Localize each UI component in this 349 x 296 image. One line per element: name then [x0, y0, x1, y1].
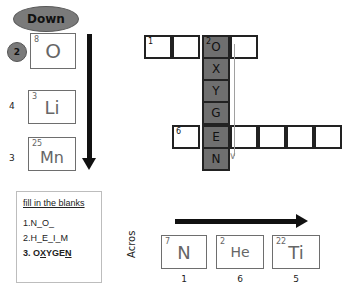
crossword-cell[interactable]: 6 — [172, 125, 200, 149]
element-card-helium: 2 He — [216, 235, 264, 269]
clue-number: 6 — [176, 127, 181, 136]
side-number: 3 — [9, 153, 15, 163]
element-card-titanium: 22 Ti — [272, 235, 320, 269]
down-arrow-icon — [87, 34, 92, 162]
crossword-cell[interactable] — [172, 35, 200, 59]
fill-in-blanks-title: fill in the blanks — [23, 198, 95, 208]
right-arrow-icon — [175, 219, 298, 224]
fill-in-blanks-box: fill in the blanks 1.N_O_ 2.H_E_I_M 3. O… — [16, 191, 102, 283]
crossword-cell[interactable] — [286, 125, 314, 149]
down-arrow-head-icon — [82, 158, 96, 170]
element-card-nitrogen: 7 N — [161, 235, 207, 269]
right-arrow-head-icon — [296, 214, 308, 228]
bottom-number: 5 — [273, 274, 319, 284]
crossword-cell[interactable] — [314, 125, 342, 149]
element-card-oxygen: 8 O — [30, 33, 76, 69]
element-symbol: Li — [29, 97, 75, 118]
crossword-cell-down[interactable]: G — [202, 101, 230, 125]
crossword-cell-down[interactable]: E — [202, 125, 230, 149]
down-label: Down — [13, 6, 79, 32]
crossword-cell-down[interactable]: 2 O — [202, 35, 230, 59]
element-card-lithium: 3 Li — [28, 90, 76, 124]
clue-number: 1 — [148, 37, 153, 46]
answer-underlined-letter: N — [65, 248, 72, 258]
bottom-number: 1 — [161, 274, 207, 284]
side-number: 4 — [9, 101, 15, 111]
blank-line-1: 1.N_O_ — [23, 218, 95, 228]
clue-number-badge: 2 — [7, 42, 27, 62]
answer-middle: YGE — [46, 248, 65, 258]
blank-line-2: 2.H_E_I_M — [23, 233, 95, 243]
element-symbol: N — [162, 242, 206, 263]
crossword-cell-down[interactable]: Y — [202, 79, 230, 103]
guide-line — [234, 44, 235, 156]
bottom-number: 6 — [217, 274, 263, 284]
guide-arrow-icon: ∨ — [229, 150, 236, 161]
element-symbol: O — [31, 39, 75, 63]
crossword-cell[interactable]: 1 — [144, 35, 172, 59]
element-symbol: Ti — [273, 242, 319, 263]
answer-prefix: 3. O — [23, 248, 40, 258]
crossword-cell[interactable] — [258, 125, 286, 149]
element-card-manganese: 25 Mn — [28, 137, 76, 171]
across-label: Acros — [126, 231, 137, 258]
crossword-cell-down[interactable]: N — [202, 147, 230, 171]
element-symbol: He — [217, 244, 263, 260]
crossword-cell-down[interactable]: X — [202, 57, 230, 81]
element-symbol: Mn — [29, 147, 75, 166]
blank-line-3: 3. OXYGEN — [23, 248, 95, 258]
